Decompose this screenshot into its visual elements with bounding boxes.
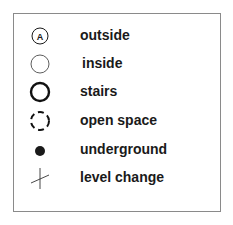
- filled-dot-icon: [26, 138, 54, 162]
- legend-item-inside: inside: [14, 52, 220, 76]
- legend-box: A outside inside stairs open space: [13, 13, 221, 212]
- thick-circle-icon: [26, 80, 54, 104]
- legend-label: inside: [82, 54, 122, 72]
- legend-item-underground: underground: [14, 138, 220, 162]
- symbol-letter: A: [37, 32, 44, 42]
- legend-label: underground: [80, 140, 167, 158]
- thin-circle-icon: [26, 52, 54, 76]
- cross-tick-icon: [26, 166, 54, 190]
- legend-item-level-change: level change: [14, 166, 220, 190]
- legend-label: stairs: [80, 82, 117, 100]
- legend-item-outside: A outside: [14, 24, 220, 48]
- legend-label: open space: [80, 111, 157, 129]
- dashed-circle-icon: [26, 109, 54, 133]
- legend-label: outside: [80, 26, 130, 44]
- legend-item-open-space: open space: [14, 109, 220, 133]
- legend-label: level change: [80, 168, 164, 186]
- circle-with-letter-icon: A: [26, 24, 54, 48]
- legend-item-stairs: stairs: [14, 80, 220, 104]
